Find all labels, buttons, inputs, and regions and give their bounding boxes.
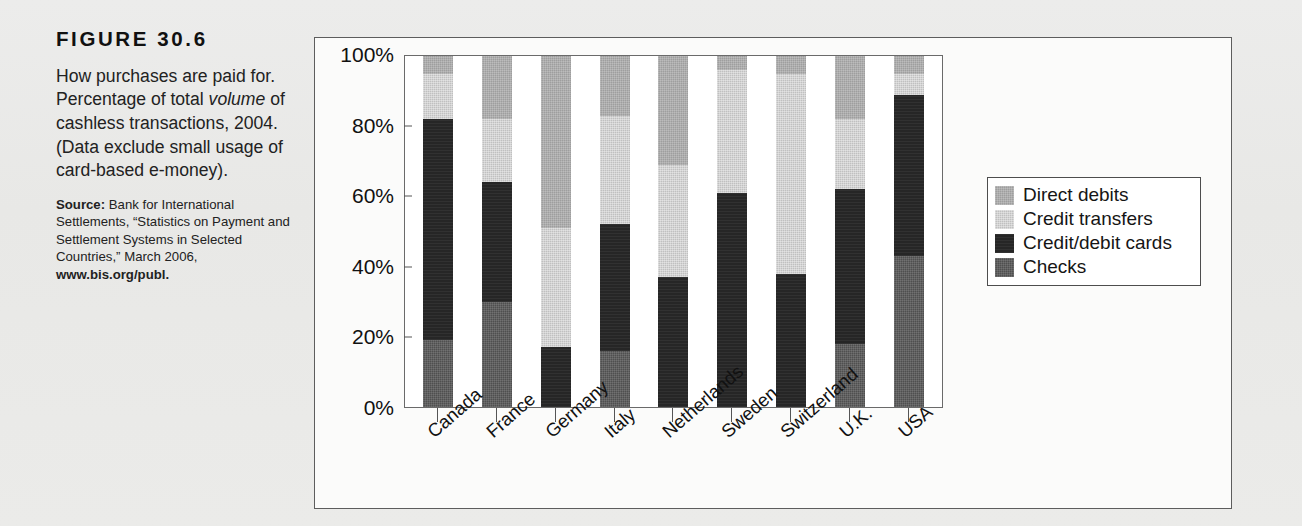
chart-legend: Direct debitsCredit transfersCredit/debi… [987, 177, 1201, 286]
bar-segment-credit-debit-cards [482, 182, 512, 301]
bar-segment-credit-debit-cards [835, 189, 865, 343]
legend-label: Checks [1023, 256, 1086, 278]
legend-swatch-icon [995, 234, 1014, 253]
legend-label: Credit/debit cards [1023, 232, 1172, 254]
bar-usa[interactable] [894, 56, 924, 407]
bar-segment-credit-transfers [423, 74, 453, 120]
bar-u-k[interactable] [835, 56, 865, 407]
bar-segment-credit-transfers [894, 74, 924, 95]
bar-segment-direct-debits [482, 56, 512, 119]
figure-number-label: FIGURE 30.6 [56, 28, 306, 51]
bar-segment-credit-transfers [717, 70, 747, 193]
y-axis-tick-mark [404, 266, 412, 267]
bar-segment-credit-debit-cards [894, 95, 924, 256]
bar-switzerland[interactable] [776, 56, 806, 407]
figure-caption-column: FIGURE 30.6 How purchases are paid for. … [56, 28, 306, 283]
y-axis-tick-mark [404, 196, 412, 197]
bar-segment-credit-debit-cards [600, 224, 630, 350]
bar-segment-credit-transfers [776, 74, 806, 274]
y-axis-tick-label: 60% [352, 184, 394, 208]
bar-segment-checks [894, 256, 924, 407]
bar-segment-checks [423, 340, 453, 407]
figure-description-emphasis: volume [209, 89, 266, 109]
legend-item-checks[interactable]: Checks [995, 256, 1191, 278]
y-axis-tick-label: 20% [352, 325, 394, 349]
bar-segment-credit-debit-cards [541, 347, 571, 407]
legend-swatch-icon [995, 186, 1014, 205]
legend-swatch-icon [995, 258, 1014, 277]
bar-segment-credit-debit-cards [658, 277, 688, 407]
legend-item-credit-debit-cards[interactable]: Credit/debit cards [995, 232, 1191, 254]
chart-plot-wrapper [404, 55, 943, 408]
bar-segment-credit-debit-cards [776, 274, 806, 407]
y-axis-tick-label: 40% [352, 255, 394, 279]
bar-segment-direct-debits [894, 56, 924, 74]
legend-item-direct-debits[interactable]: Direct debits [995, 184, 1191, 206]
bar-segment-credit-transfers [835, 119, 865, 189]
bar-segment-direct-debits [600, 56, 630, 116]
y-axis-tick-label: 0% [364, 396, 394, 420]
legend-label: Credit transfers [1023, 208, 1153, 230]
source-url[interactable]: www.bis.org/publ. [56, 267, 169, 282]
bar-segment-credit-transfers [541, 228, 571, 347]
bar-segment-direct-debits [776, 56, 806, 74]
y-axis-tick-label: 80% [352, 114, 394, 138]
y-axis-tick-mark [404, 337, 412, 338]
bar-segment-direct-debits [541, 56, 571, 228]
bar-segment-direct-debits [835, 56, 865, 119]
figure-source: Source: Bank for International Settlemen… [56, 196, 306, 283]
bar-segment-credit-transfers [600, 116, 630, 225]
source-label: Source: [56, 197, 105, 212]
bar-segment-credit-transfers [482, 119, 512, 182]
bar-segment-credit-debit-cards [423, 119, 453, 340]
chart-plot-area [404, 55, 943, 408]
y-axis-tick-mark [404, 125, 412, 126]
bar-group [405, 56, 942, 407]
legend-label: Direct debits [1023, 184, 1129, 206]
bar-italy[interactable] [600, 56, 630, 407]
bar-canada[interactable] [423, 56, 453, 407]
y-axis-tick-label: 100% [340, 43, 394, 67]
bar-segment-direct-debits [658, 56, 688, 165]
bar-germany[interactable] [541, 56, 571, 407]
legend-swatch-icon [995, 210, 1014, 229]
y-axis: 0%20%40%60%80%100% [318, 55, 402, 408]
legend-item-credit-transfers[interactable]: Credit transfers [995, 208, 1191, 230]
bar-segment-checks [482, 302, 512, 407]
figure-description: How purchases are paid for. Percentage o… [56, 65, 306, 183]
bar-segment-credit-transfers [658, 165, 688, 277]
page-background: FIGURE 30.6 How purchases are paid for. … [0, 0, 1302, 526]
bar-netherlands[interactable] [658, 56, 688, 407]
bar-sweden[interactable] [717, 56, 747, 407]
bar-segment-direct-debits [423, 56, 453, 74]
bar-france[interactable] [482, 56, 512, 407]
bar-segment-direct-debits [717, 56, 747, 70]
